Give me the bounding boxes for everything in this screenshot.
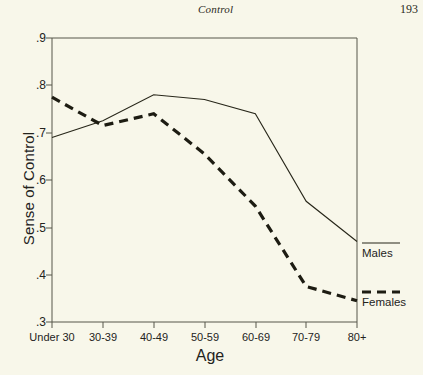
y-tick-label-6: .3 — [20, 315, 46, 329]
y-tick-label-0: .9 — [20, 31, 46, 45]
series-line-females — [52, 97, 357, 301]
y-axis-ticks — [46, 38, 52, 322]
x-tick-label-3: 50-59 — [180, 331, 230, 343]
x-tick-label-1: 30-39 — [78, 331, 128, 343]
x-tick-label-6: 80+ — [337, 331, 377, 343]
x-tick-label-5: 70-79 — [281, 331, 331, 343]
x-tick-label-0: Under 30 — [22, 331, 82, 343]
legend-label-females: Females — [362, 296, 406, 308]
legend-label-males: Males — [362, 247, 393, 259]
x-tick-label-2: 40-49 — [129, 331, 179, 343]
x-axis-ticks — [52, 322, 357, 328]
line-chart-figure: .9 .8 .7 .6 .5 .4 .3 Under 30 30-39 40-4… — [0, 0, 423, 375]
plot-frame — [52, 38, 357, 322]
x-axis-title: Age — [155, 347, 265, 365]
y-tick-label-5: .4 — [20, 268, 46, 282]
chart-canvas — [0, 0, 423, 375]
y-tick-label-1: .8 — [20, 78, 46, 92]
y-axis-title: Sense of Control — [20, 109, 37, 269]
x-tick-label-4: 60-69 — [231, 331, 281, 343]
series-line-males — [52, 95, 357, 242]
